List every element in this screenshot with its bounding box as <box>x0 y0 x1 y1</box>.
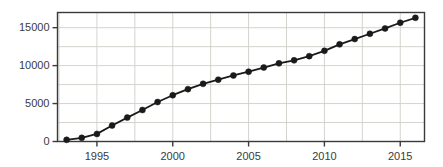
y-axis-tick-label: 0 <box>43 136 49 147</box>
y-axis-tick-label: 5000 <box>25 98 49 109</box>
data-point-marker <box>367 31 373 37</box>
data-point-marker <box>291 57 297 63</box>
data-point-marker <box>155 99 161 105</box>
data-point-marker <box>412 15 418 21</box>
data-point-marker <box>261 65 267 71</box>
data-point-marker <box>246 69 252 75</box>
data-point-marker <box>109 123 115 129</box>
data-point-marker <box>185 86 191 92</box>
data-point-marker <box>276 60 282 66</box>
x-axis-tick-label: 1995 <box>67 151 127 162</box>
data-point-marker <box>397 20 403 26</box>
y-axis-tick-label: 15000 <box>19 22 50 33</box>
data-point-marker <box>139 107 145 113</box>
data-point-marker <box>124 115 130 121</box>
data-point-marker <box>321 48 327 54</box>
x-axis-tick-label: 2000 <box>143 151 203 162</box>
data-point-marker <box>352 36 358 42</box>
data-point-marker <box>306 53 312 59</box>
data-point-marker <box>382 25 388 31</box>
data-line <box>67 18 416 140</box>
data-point-marker <box>94 131 100 137</box>
data-point-marker <box>200 81 206 87</box>
chart-screenshot: 050001000015000 19952000200520102015 <box>0 0 443 167</box>
plot-canvas <box>0 0 443 167</box>
data-point-marker <box>79 135 85 141</box>
data-point-marker <box>230 72 236 78</box>
x-axis-tick-label: 2010 <box>294 151 354 162</box>
data-point-marker <box>170 92 176 98</box>
data-point-marker <box>64 137 70 143</box>
line-chart-figure: 050001000015000 19952000200520102015 <box>0 0 443 167</box>
y-axis-tick-label: 10000 <box>19 60 50 71</box>
data-point-marker <box>337 41 343 47</box>
x-axis-tick-label: 2005 <box>219 151 279 162</box>
data-point-marker <box>215 77 221 83</box>
x-axis-tick-label: 2015 <box>370 151 430 162</box>
series-line <box>67 18 416 140</box>
